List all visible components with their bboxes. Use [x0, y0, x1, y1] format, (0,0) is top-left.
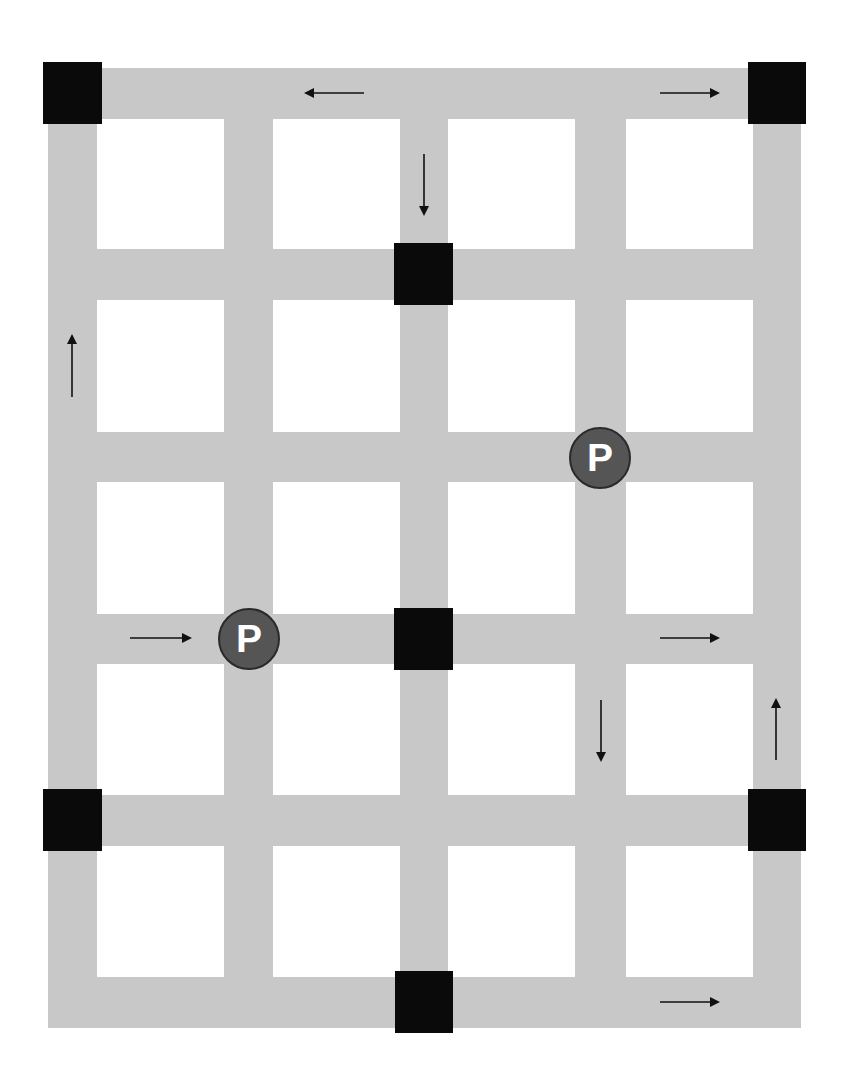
- traffic-direction-arrows: [0, 0, 850, 1082]
- street-grid-map: PP: [0, 0, 850, 1082]
- parking-lower-left-icon: P: [218, 608, 280, 670]
- parking-upper-right-icon: P: [569, 427, 631, 489]
